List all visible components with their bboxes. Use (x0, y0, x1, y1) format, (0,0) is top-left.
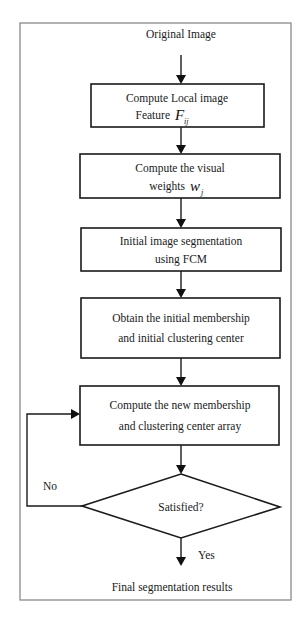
end-label: Final segmentation results (112, 581, 233, 594)
step2-symbol: w (190, 178, 200, 194)
decision-diamond: Satisfied? (82, 474, 280, 538)
step4-box: Obtain the initial membership and initia… (81, 298, 280, 358)
flowchart: Original Image Compute Local image Featu… (0, 0, 305, 620)
step3-line1: Initial image segmentation (120, 235, 243, 248)
decision-label: Satisfied? (158, 501, 203, 513)
step4-line2: and initial clustering center (118, 332, 244, 345)
arrow-step3-to-step4 (176, 271, 186, 298)
step5-box: Compute the new membership and clusterin… (80, 386, 279, 445)
arrow-start-to-step1 (176, 55, 186, 84)
arrow-step4-to-step5 (176, 358, 186, 386)
yes-label: Yes (198, 549, 215, 561)
step3-box: Initial image segmentation using FCM (81, 228, 281, 271)
step5-line2: and clustering center array (119, 420, 242, 433)
arrow-yes (176, 538, 186, 566)
step3-line2: using FCM (155, 253, 207, 266)
start-label: Original Image (146, 28, 216, 41)
arrow-step2-to-step3 (176, 198, 186, 228)
step1-line2: Feature (136, 109, 170, 121)
step5-line1: Compute the new membership (110, 399, 251, 412)
step1-line1: Compute Local image (126, 92, 228, 105)
arrow-step1-to-step2 (176, 127, 186, 154)
arrow-step5-to-decision (176, 445, 186, 474)
step4-line1: Obtain the initial membership (112, 312, 250, 325)
step2-line2: weights (149, 180, 185, 193)
step1-box: Compute Local image Feature F ij (91, 84, 264, 127)
step1-subscript: ij (184, 117, 189, 126)
no-label: No (43, 480, 57, 492)
step2-line1: Compute the visual (135, 162, 224, 175)
step2-box: Compute the visual weights w j (80, 154, 280, 198)
